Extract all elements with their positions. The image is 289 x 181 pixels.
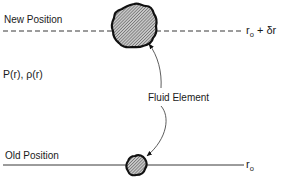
- fluid-element-label: Fluid Element: [148, 93, 209, 103]
- original-fluid-element: [127, 155, 147, 175]
- old-position-label: Old Position: [5, 151, 59, 161]
- new-position-label: New Position: [4, 15, 62, 25]
- diagram-canvas: New Position P(r), ρ(r) Old Position Flu…: [0, 0, 289, 181]
- delta-r-suffix: + δr: [257, 24, 276, 36]
- r0-subscript: o: [250, 30, 254, 39]
- pressure-density-label: P(r), ρ(r): [3, 69, 43, 80]
- r0-subscript: o: [250, 164, 254, 173]
- expanded-fluid-element: [112, 3, 157, 47]
- new-radius-label: ro + δr: [246, 25, 276, 36]
- old-radius-label: ro: [246, 159, 254, 170]
